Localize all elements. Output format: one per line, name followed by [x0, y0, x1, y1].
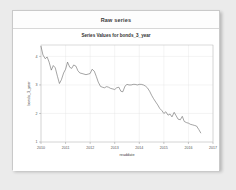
xtick-label-2013: 2013 — [111, 146, 119, 150]
ytick-label-3: 3 — [36, 83, 38, 87]
chart-svg-container: 432120102011201220132014201520162017read… — [13, 29, 219, 171]
ytick-label-4: 4 — [36, 55, 38, 59]
x-axis-label: readdate — [120, 153, 135, 157]
xtick-label-2016: 2016 — [184, 146, 192, 150]
xtick-label-2017: 2017 — [209, 146, 217, 150]
xtick-label-2014: 2014 — [135, 146, 143, 150]
y-axis-label: bonds_3_year — [27, 81, 31, 106]
plot-frame — [41, 45, 213, 142]
chart-panel: Series Values for bonds_3_year 432120102… — [13, 29, 219, 171]
card-header-title: Raw series — [101, 17, 132, 23]
xtick-label-2011: 2011 — [62, 146, 70, 150]
ytick-label-2: 2 — [36, 112, 38, 116]
line-chart: 432120102011201220132014201520162017read… — [13, 29, 219, 171]
card-header: Raw series — [13, 11, 219, 29]
xtick-label-2015: 2015 — [160, 146, 168, 150]
xtick-label-2010: 2010 — [37, 146, 45, 150]
ytick-label-1: 1 — [36, 140, 38, 144]
raw-series-card: Raw series Series Values for bonds_3_yea… — [12, 10, 220, 170]
xtick-label-2012: 2012 — [86, 146, 94, 150]
series-line-bonds_3_year — [41, 46, 201, 132]
screenshot-root: Raw series Series Values for bonds_3_yea… — [0, 0, 236, 190]
